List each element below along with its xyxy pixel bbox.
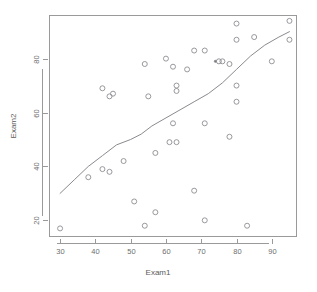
x-tick-label: 70: [197, 247, 205, 256]
highlight-point-group: [214, 60, 216, 62]
x-tick-label: 40: [91, 247, 99, 256]
y-tick-label: 60: [32, 109, 41, 117]
y-tick-label: 20: [32, 216, 41, 224]
x-tick-label: 50: [127, 247, 135, 256]
x-axis-title: Exam1: [146, 268, 171, 277]
chart-canvas: 30405060708090 Exam1 20406080 Exam2: [0, 0, 317, 292]
x-tick-label: 30: [56, 247, 64, 256]
scatter-plot-figure: 30405060708090 Exam1 20406080 Exam2: [0, 0, 317, 292]
x-tick-label: 90: [268, 247, 276, 256]
x-tick-label: 80: [233, 247, 241, 256]
y-axis-title: Exam2: [9, 113, 18, 138]
y-tick-label: 80: [32, 55, 41, 63]
x-tick-label: 60: [162, 247, 170, 256]
y-tick-label: 40: [32, 162, 41, 170]
highlighted-data-point: [214, 60, 216, 62]
